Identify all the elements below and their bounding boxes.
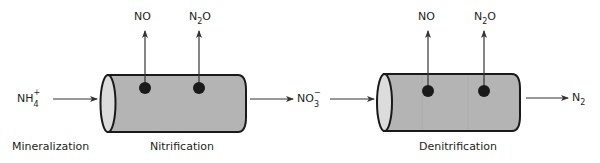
dinitrogen-label: N2 <box>572 92 585 105</box>
nitrate-base: NO <box>297 92 314 105</box>
mineralization-label: Mineralization <box>12 141 89 153</box>
nitrate-subscript: 3 <box>314 99 319 111</box>
nitric-oxide-label-nitrification: NO <box>134 11 151 23</box>
site-dot <box>193 82 205 94</box>
nitrate-charge-stack: −3 <box>314 93 320 105</box>
n2o-base: N <box>189 10 197 23</box>
dinitrogen-base: N <box>572 91 580 104</box>
dinitrogen-subscript: 2 <box>580 98 585 107</box>
n2o-rest: O <box>202 10 211 23</box>
ammonium-subscript: 4 <box>34 99 39 111</box>
diagram-canvas <box>0 0 600 163</box>
ammonium-label: NH+4 <box>17 93 40 105</box>
denitrification-cylinder <box>377 74 520 131</box>
ammonium-charge-stack: +4 <box>34 93 40 105</box>
n2o-subscript: 2 <box>482 17 487 26</box>
site-dot <box>478 85 490 97</box>
nitrate-label: NO−3 <box>297 93 320 105</box>
nitric-oxide-label-denitrification: NO <box>418 11 435 23</box>
nitrous-oxide-label-nitrification: N2O <box>189 11 211 24</box>
ammonium-charge: + <box>34 87 41 99</box>
nitrification-label: Nitrification <box>150 141 214 153</box>
n2o-base: N <box>474 10 482 23</box>
denitrification-label: Denitrification <box>419 141 497 153</box>
site-dot <box>422 85 434 97</box>
ammonium-base: NH <box>17 92 34 105</box>
n2o-subscript: 2 <box>197 17 202 26</box>
nitrate-charge: − <box>314 87 321 99</box>
site-dot <box>139 82 151 94</box>
nitrous-oxide-label-denitrification: N2O <box>474 11 496 24</box>
n2o-rest: O <box>487 10 496 23</box>
nitrification-cylinder <box>101 75 247 132</box>
